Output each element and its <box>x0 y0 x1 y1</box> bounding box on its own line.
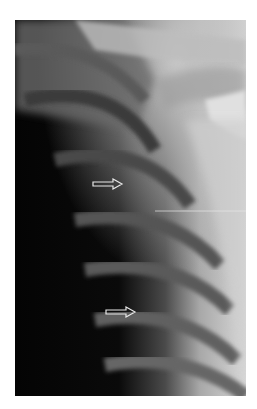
arrow-indicator-upper <box>92 178 124 190</box>
arrow-indicator-lower <box>105 306 137 318</box>
xray-image <box>15 20 246 396</box>
xray-graphic <box>15 20 246 396</box>
